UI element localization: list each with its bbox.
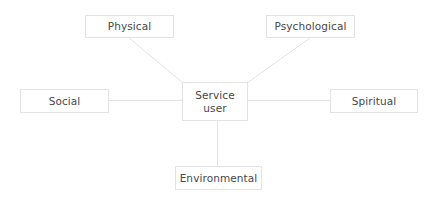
node-psychological-label: Psychological <box>274 20 346 33</box>
node-service-user-line2: user <box>203 102 226 115</box>
node-psychological: Psychological <box>266 15 355 38</box>
node-spiritual: Spiritual <box>330 89 418 113</box>
connector-psychological <box>247 38 310 83</box>
service-user-diagram: Physical Psychological Social Service us… <box>0 0 437 197</box>
node-service-user: Service user <box>182 82 248 121</box>
node-environmental: Environmental <box>175 166 262 190</box>
node-service-user-line1: Service <box>195 89 235 102</box>
connector-physical <box>128 37 183 83</box>
node-physical: Physical <box>85 15 174 38</box>
node-social-label: Social <box>49 95 81 108</box>
node-environmental-label: Environmental <box>180 172 258 185</box>
node-physical-label: Physical <box>108 20 152 33</box>
node-social: Social <box>20 89 109 113</box>
node-spiritual-label: Spiritual <box>352 95 397 108</box>
